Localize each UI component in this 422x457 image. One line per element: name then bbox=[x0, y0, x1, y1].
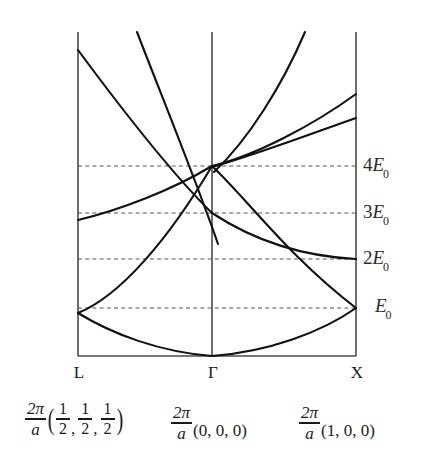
ylabel-E0-symbol: E bbox=[375, 295, 387, 316]
ylabel-4E0-subscript: 0 bbox=[383, 167, 389, 181]
kpoint-gamma-prefactor-denominator: a bbox=[175, 424, 188, 442]
kpoint-L-c2-numerator: 1 bbox=[79, 401, 91, 418]
kpoint-formula-L: 2π a ( 1 2 , 1 2 , 1 2 ) bbox=[24, 400, 124, 438]
ylabel-3E0: 3E0 bbox=[363, 202, 390, 225]
band-structure-plot bbox=[0, 0, 422, 457]
left-paren-icon: ( bbox=[48, 407, 55, 431]
band-curve-lowest bbox=[78, 308, 356, 356]
kpoint-gamma-c1: 0 bbox=[199, 421, 208, 440]
kpoint-L-prefactor-numerator: 2π bbox=[25, 400, 46, 418]
kpoint-L-c1-denominator: 2 bbox=[57, 420, 69, 437]
xtick-label-X: X bbox=[346, 364, 368, 381]
kpoint-X-prefactor: 2π a bbox=[299, 404, 320, 442]
kpoint-L-c1-numerator: 1 bbox=[57, 401, 69, 418]
kpoint-L-prefactor: 2π a bbox=[25, 400, 46, 438]
kpoint-formula-X: 2π a (1, 0, 0) bbox=[298, 404, 375, 442]
comma-separator: , bbox=[93, 420, 97, 438]
kpoint-gamma-c2: 0 bbox=[216, 421, 225, 440]
kpoint-X-vector: (1, 0, 0) bbox=[321, 422, 375, 442]
ylabel-3E0-subscript: 0 bbox=[383, 214, 389, 228]
kpoint-gamma-c3: 0 bbox=[233, 421, 242, 440]
kpoint-gamma-vector: (0, 0, 0) bbox=[193, 422, 247, 442]
kpoint-X-prefactor-denominator: a bbox=[303, 424, 316, 442]
band-curve-L-top-to-gamma-3E0 bbox=[78, 50, 212, 213]
band-curve-L-E0-to-gamma-4E0 bbox=[78, 166, 212, 313]
ylabel-3E0-coefficient: 3 bbox=[363, 201, 373, 222]
kpoint-gamma-prefactor: 2π a bbox=[171, 404, 192, 442]
kpoint-L-c3-denominator: 2 bbox=[102, 420, 114, 437]
band-curve-gamma-4E0-rise-cross bbox=[212, 118, 356, 167]
ylabel-2E0-coefficient: 2 bbox=[363, 247, 373, 268]
ylabel-E0: E0 bbox=[375, 296, 393, 319]
comma-separator: , bbox=[71, 420, 75, 438]
ylabel-4E0-coefficient: 4 bbox=[363, 154, 373, 175]
band-structure-figure: 4E0 3E0 2E0 E0 L Γ X 2π a ( 1 2 , 1 2 , bbox=[0, 0, 422, 457]
band-curve-gamma-4E0-rise-gentle bbox=[212, 94, 356, 166]
xtick-label-gamma: Γ bbox=[202, 364, 224, 381]
right-paren-icon: ) bbox=[116, 407, 123, 431]
ylabel-2E0: 2E0 bbox=[363, 248, 390, 271]
kpoint-X-c1: 1 bbox=[327, 421, 336, 440]
ylabel-2E0-subscript: 0 bbox=[383, 260, 389, 274]
kpoint-X-c3: 0 bbox=[361, 421, 370, 440]
ylabel-E0-subscript: 0 bbox=[386, 308, 392, 322]
kpoint-X-prefactor-numerator: 2π bbox=[299, 404, 320, 422]
ylabel-4E0: 4E0 bbox=[363, 155, 390, 178]
xtick-label-L: L bbox=[68, 364, 90, 381]
kpoint-formula-gamma: 2π a (0, 0, 0) bbox=[170, 404, 247, 442]
band-curve-top-to-gamma-below bbox=[137, 32, 218, 244]
kpoint-L-c2-denominator: 2 bbox=[79, 420, 91, 437]
kpoint-L-component-2: 1 2 bbox=[78, 401, 92, 437]
kpoint-L-c3-numerator: 1 bbox=[102, 401, 114, 418]
band-curve-gamma-3E0-to-X-2E0 bbox=[212, 213, 356, 259]
band-curve-gamma-4E0-to-X-E0 bbox=[212, 166, 356, 308]
kpoint-L-component-1: 1 2 bbox=[56, 401, 70, 437]
kpoint-L-component-3: 1 2 bbox=[101, 401, 115, 437]
kpoint-X-c2: 0 bbox=[344, 421, 353, 440]
kpoint-L-prefactor-denominator: a bbox=[29, 420, 42, 438]
kpoint-gamma-prefactor-numerator: 2π bbox=[171, 404, 192, 422]
